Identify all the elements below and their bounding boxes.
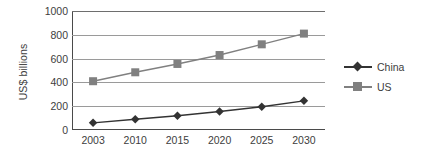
y-tick-label: 1000	[32, 6, 68, 17]
data-point-marker	[216, 51, 224, 59]
legend-label: US	[372, 81, 392, 93]
data-point-marker	[89, 119, 97, 127]
y-tick-label: 600	[32, 53, 68, 64]
chart-legend: ChinaUS	[344, 59, 429, 101]
data-point-marker	[300, 30, 308, 38]
data-point-marker	[258, 103, 266, 111]
x-tick-label: 2020	[197, 134, 243, 148]
x-axis-tick-labels: 200320102015202020252030	[72, 134, 325, 150]
legend-swatch-us	[344, 80, 372, 94]
legend-item-us[interactable]: US	[344, 79, 392, 95]
legend-swatch-china	[344, 60, 372, 74]
series-china	[89, 97, 308, 128]
y-axis-title: US$ billions	[17, 26, 31, 118]
line-chart-figure: US$ billions 02004006008001000 200320102…	[0, 0, 429, 162]
legend-item-china[interactable]: China	[344, 59, 404, 75]
legend-marker-square	[353, 82, 362, 91]
data-point-marker	[131, 68, 139, 76]
y-axis-tick-labels: 02004006008001000	[32, 0, 68, 162]
series-line	[93, 101, 304, 123]
series-us	[89, 30, 308, 86]
x-tick-label: 2030	[281, 134, 327, 148]
data-point-marker	[258, 40, 266, 48]
legend-marker-diamond	[353, 62, 363, 72]
data-point-marker	[131, 115, 139, 123]
x-tick-label: 2015	[154, 134, 200, 148]
plot-area	[72, 11, 325, 130]
data-point-marker	[89, 77, 97, 85]
data-point-marker	[300, 97, 308, 105]
series-plot	[72, 11, 325, 130]
x-tick-label: 2025	[239, 134, 285, 148]
legend-label: China	[372, 61, 404, 73]
data-point-marker	[173, 60, 181, 68]
y-tick-label: 0	[32, 125, 68, 136]
x-tick-label: 2003	[70, 134, 116, 148]
series-line	[93, 34, 304, 82]
data-point-marker	[173, 111, 181, 119]
y-tick-label: 200	[32, 101, 68, 112]
data-point-marker	[215, 107, 223, 115]
y-tick-label: 800	[32, 30, 68, 41]
x-tick-label: 2010	[112, 134, 158, 148]
y-tick-label: 400	[32, 77, 68, 88]
